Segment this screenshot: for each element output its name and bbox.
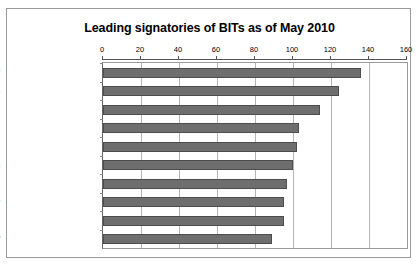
- plot-area: GermanyChinaSwitzerlandUnited KingdomFra…: [102, 62, 408, 249]
- x-tick-label: 140: [362, 45, 375, 54]
- x-tick-label: 0: [100, 45, 104, 54]
- bar-row: United Kingdom: [103, 119, 407, 138]
- bar-row: Italy: [103, 193, 407, 212]
- bar-row: France: [103, 137, 407, 156]
- x-tick: [216, 56, 217, 60]
- category-tick: [100, 156, 103, 157]
- chart-frame: Leading signatories of BITs as of May 20…: [6, 8, 411, 258]
- chart-title: Leading signatories of BITs as of May 20…: [7, 21, 412, 35]
- category-tick: [100, 193, 103, 194]
- x-tick-label: 40: [174, 45, 182, 54]
- x-tick-label: 60: [212, 45, 220, 54]
- bar-row: Egypt: [103, 156, 407, 175]
- bar: [103, 142, 297, 152]
- x-tick-label: 160: [400, 45, 413, 54]
- x-tick-label: 120: [324, 45, 337, 54]
- bar: [103, 197, 284, 207]
- x-tick-label: 80: [250, 45, 258, 54]
- category-tick: [100, 174, 103, 175]
- category-tick: [100, 211, 103, 212]
- bar: [103, 234, 272, 244]
- bar: [103, 68, 361, 78]
- category-tick: [100, 82, 103, 83]
- category-tick: [100, 63, 103, 64]
- bar-row: Korea, Republic of: [103, 230, 407, 249]
- x-tick-label: 20: [136, 45, 144, 54]
- bar-row: Netherlands: [103, 174, 407, 193]
- category-tick: [100, 100, 103, 101]
- category-tick: [100, 230, 103, 231]
- bar: [103, 179, 287, 189]
- x-tick: [330, 56, 331, 60]
- bar: [103, 160, 293, 170]
- bar-row: Belgium and Luxembourg: [103, 211, 407, 230]
- bar: [103, 123, 299, 133]
- bar-row: Switzerland: [103, 100, 407, 119]
- bar-row: China: [103, 82, 407, 101]
- bar: [103, 216, 284, 226]
- x-tick: [406, 56, 407, 60]
- bar: [103, 86, 339, 96]
- x-tick-label: 100: [286, 45, 299, 54]
- x-tick: [140, 56, 141, 60]
- bar: [103, 105, 320, 115]
- category-tick: [100, 137, 103, 138]
- category-tick: [100, 119, 103, 120]
- x-tick: [368, 56, 369, 60]
- bar-row: Germany: [103, 63, 407, 82]
- x-tick: [292, 56, 293, 60]
- x-tick: [178, 56, 179, 60]
- x-tick: [102, 56, 103, 60]
- x-tick: [254, 56, 255, 60]
